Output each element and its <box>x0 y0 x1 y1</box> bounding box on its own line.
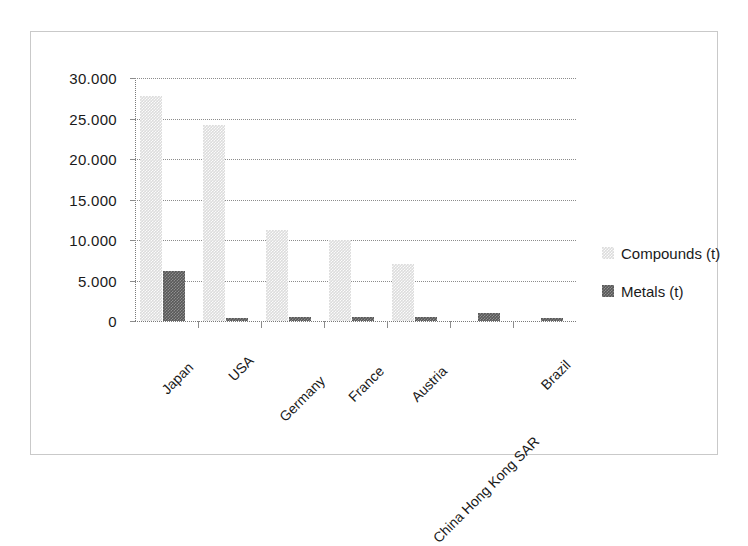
x-axis-category-label: Austria <box>408 363 450 405</box>
gridline <box>135 119 576 120</box>
gridline <box>135 159 576 160</box>
bar-metals <box>226 318 248 321</box>
chart-legend: Compounds (t)Metals (t) <box>602 245 742 321</box>
legend-item: Metals (t) <box>602 283 742 299</box>
x-axis-tick <box>387 321 388 328</box>
x-axis-category-label: Germany <box>276 373 328 425</box>
x-axis-category-label: France <box>345 363 387 405</box>
gridline <box>135 78 576 79</box>
bar-metals <box>289 317 311 321</box>
legend-label: Compounds (t) <box>621 245 720 262</box>
bar-metals <box>163 271 185 321</box>
gridline <box>135 200 576 201</box>
x-axis-tick <box>513 321 514 328</box>
bar-compounds <box>203 125 225 321</box>
x-axis-tick <box>261 321 262 328</box>
gridline <box>135 240 576 241</box>
x-axis-tick <box>324 321 325 328</box>
bar-metals <box>478 313 500 321</box>
x-axis-category-label: Brazil <box>538 357 574 393</box>
plot-area <box>135 78 576 321</box>
bar-compounds <box>329 240 351 321</box>
y-axis-tick-label: 30.000 <box>43 70 117 87</box>
bar-compounds <box>266 230 288 321</box>
legend-label: Metals (t) <box>621 283 684 300</box>
x-axis-category-label: China Hong Kong SAR <box>430 433 543 546</box>
bar-compounds <box>392 264 414 321</box>
bar-metals <box>352 317 374 321</box>
legend-swatch-metals <box>602 285 614 297</box>
x-axis-tick <box>450 321 451 328</box>
y-axis-tick-label: 15.000 <box>43 191 117 208</box>
gridline <box>135 321 576 322</box>
y-axis-tick-label: 20.000 <box>43 151 117 168</box>
y-axis-tick-label: 5.000 <box>43 272 117 289</box>
y-axis-tick-label: 10.000 <box>43 232 117 249</box>
legend-swatch-compounds <box>602 247 614 259</box>
bar-metals <box>415 317 437 321</box>
gridline <box>135 281 576 282</box>
chart-frame: 05.00010.00015.00020.00025.00030.000 Jap… <box>30 31 718 455</box>
x-axis-category-label: USA <box>225 352 257 384</box>
y-axis-tick-label: 0 <box>43 313 117 330</box>
bar-metals <box>541 318 563 321</box>
bar-compounds <box>140 96 162 321</box>
legend-item: Compounds (t) <box>602 245 742 261</box>
x-axis-tick <box>198 321 199 328</box>
y-axis-tick-label: 25.000 <box>43 110 117 127</box>
x-axis-category-label: Japan <box>158 359 196 397</box>
